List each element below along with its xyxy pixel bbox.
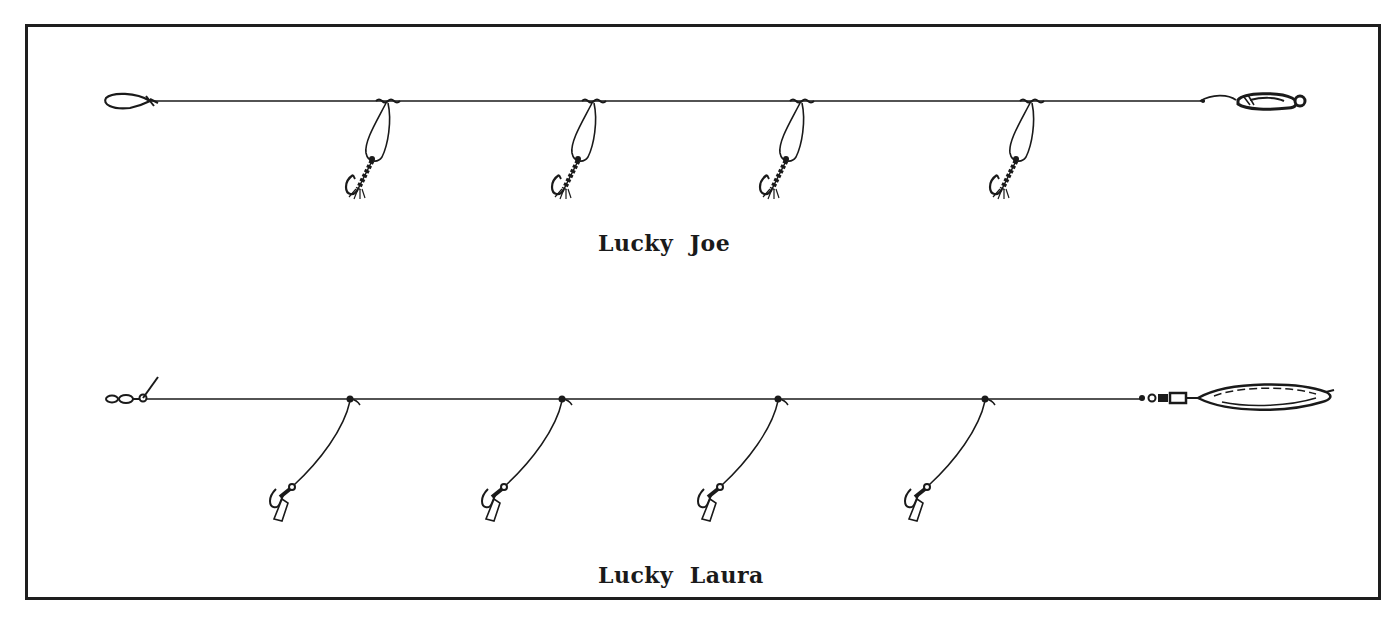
dropper-hook-icon	[905, 396, 995, 522]
dropper-hook-icon	[270, 396, 360, 522]
dropper-hook-icon	[760, 100, 814, 200]
dropper-hook-icon	[482, 396, 572, 522]
dropper-hook-icon	[698, 396, 788, 522]
rig-caption-lucky-joe: Lucky Joe	[598, 230, 730, 256]
rig-lucky-laura	[106, 377, 1334, 521]
dropper-hook-icon	[346, 100, 400, 200]
rig-illustration	[0, 0, 1393, 617]
dropper-hook-icon	[552, 100, 606, 200]
elongated-spoon-lure-icon	[1139, 384, 1334, 409]
rig-caption-lucky-laura: Lucky Laura	[598, 562, 764, 588]
rig-lucky-joe	[105, 94, 1305, 199]
spoon-lure-icon	[1200, 94, 1305, 109]
dropper-hook-icon	[990, 100, 1044, 200]
